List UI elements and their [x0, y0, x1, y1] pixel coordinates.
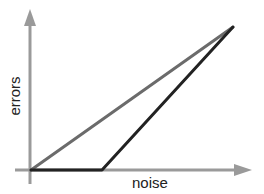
gray-line-series: [31, 27, 233, 170]
y-axis: [24, 9, 36, 184]
y-axis-arrow-icon: [24, 9, 36, 26]
x-axis-label: noise: [132, 174, 168, 191]
chart: noise errors: [0, 0, 264, 194]
x-axis-arrow-icon: [234, 164, 252, 176]
y-axis-label: errors: [6, 76, 23, 115]
